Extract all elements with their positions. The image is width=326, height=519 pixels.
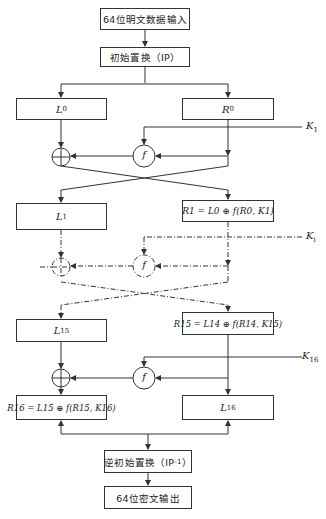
input-label: 64位明文数据输入 <box>103 12 187 26</box>
l16-box: L16 <box>182 395 274 420</box>
r1-formula: R1 = L0 ⊕ f(R0, K1) <box>182 206 274 216</box>
ip-label: 初始置换（IP） <box>110 50 180 64</box>
l1-box: L1 <box>16 203 107 230</box>
l15-box: L15 <box>16 319 107 342</box>
l16-sub: 16 <box>227 404 236 412</box>
l0-sub: 0 <box>63 105 67 113</box>
ip-inv-prefix: 逆初始置换（IP <box>104 455 174 469</box>
r15-formula-box: R15 = L14 ⊕ f(R14, K15) <box>182 312 274 335</box>
inverse-permutation-box: 逆初始置换（IP-1） <box>104 450 192 473</box>
l15-var: L <box>54 325 61 336</box>
r0-sub: 0 <box>230 105 234 113</box>
r0-var: R <box>222 104 230 115</box>
key-k16-label: K16 <box>302 350 318 364</box>
diagram-lines <box>0 0 326 519</box>
output-label: 64位密文输出 <box>116 491 180 505</box>
r15-formula: R15 = L14 ⊕ f(R14, K15) <box>174 319 282 329</box>
f-function-i: f <box>133 259 155 270</box>
r1-formula-box: R1 = L0 ⊕ f(R0, K1) <box>182 200 274 222</box>
plaintext-input-box: 64位明文数据输入 <box>100 8 190 30</box>
l0-box: L0 <box>16 98 107 120</box>
r16-formula: R16 = L15 ⊕ f(R15, K16) <box>7 403 115 413</box>
f-function-1: f <box>133 149 155 160</box>
k1-sub: 1 <box>313 126 317 134</box>
ki-sub: i <box>313 236 315 244</box>
r16-formula-box: R16 = L15 ⊕ f(R15, K16) <box>16 395 107 420</box>
ciphertext-output-box: 64位密文输出 <box>104 486 192 509</box>
ip-inv-suffix: ） <box>182 455 192 469</box>
initial-permutation-box: 初始置换（IP） <box>100 47 190 67</box>
l0-var: L <box>56 104 63 115</box>
l15-sub: 15 <box>60 327 69 335</box>
ip-inv-sup: -1 <box>174 458 181 466</box>
k16-sub: 16 <box>309 356 318 364</box>
r0-box: R0 <box>182 98 274 120</box>
l1-sub: 1 <box>63 213 67 221</box>
f-function-16: f <box>133 371 155 382</box>
key-k1-label: K1 <box>306 120 318 134</box>
l16-var: L <box>220 402 227 413</box>
key-ki-label: Ki <box>306 230 316 244</box>
l1-var: L <box>56 211 63 222</box>
